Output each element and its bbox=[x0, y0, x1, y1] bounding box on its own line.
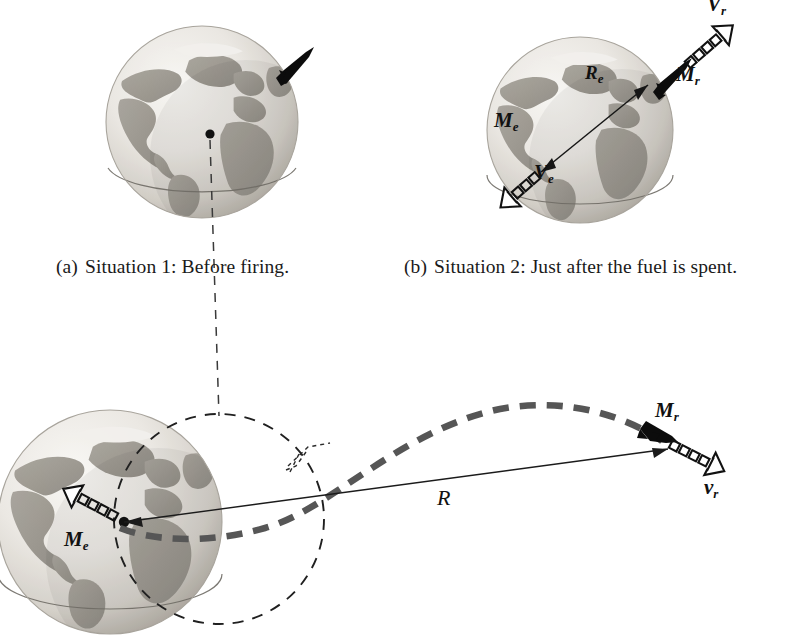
label-Vr: Vr bbox=[707, 0, 726, 17]
earth-center-dot-a bbox=[205, 129, 214, 138]
caption-a-tag: (a) bbox=[56, 256, 78, 277]
launch-flare-dashed bbox=[286, 443, 330, 472]
caption-panel-b: (b)Situation 2: Just after the fuel is s… bbox=[404, 255, 744, 280]
label-vr: vr bbox=[704, 475, 718, 500]
label-Ve: Ve bbox=[534, 160, 554, 185]
label-Re: Re bbox=[585, 62, 603, 84]
label-Mr-panel-b: Mr bbox=[676, 62, 700, 87]
caption-b-tag: (b) bbox=[404, 256, 427, 277]
label-Me-panel-b: Me bbox=[494, 108, 518, 133]
figure-artwork bbox=[0, 0, 786, 635]
rocket-icon-a bbox=[276, 47, 314, 86]
caption-a-text: Situation 1: Before firing. bbox=[85, 256, 289, 277]
velocity-vector-vr-c bbox=[665, 433, 730, 483]
label-R: R bbox=[437, 485, 450, 511]
caption-b-text: Situation 2: Just after the fuel is spen… bbox=[434, 256, 737, 277]
globe-a bbox=[106, 26, 342, 252]
label-Me-panel-c: Me bbox=[64, 527, 88, 552]
label-Mr-panel-c: Mr bbox=[655, 398, 679, 423]
figure-root: Vr Mr Re Me Ve Me R Mr vr (a)Situation 1… bbox=[0, 0, 786, 635]
caption-panel-a: (a)Situation 1: Before firing. bbox=[56, 255, 386, 280]
